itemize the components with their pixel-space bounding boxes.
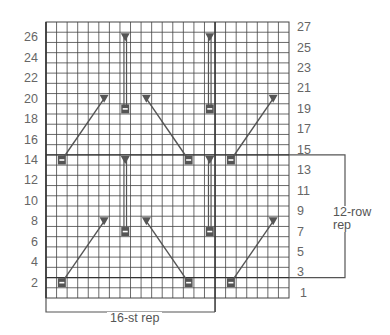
row-label-left: 14 [24, 154, 38, 167]
row-label-right: 7 [297, 226, 304, 239]
row-label-left: 12 [24, 174, 38, 187]
row-label-right: 9 [297, 205, 304, 218]
row-label-left: 24 [24, 52, 38, 65]
row-label-left: 26 [24, 31, 38, 44]
row-label-right: 19 [297, 103, 311, 116]
row-label-left: 10 [24, 195, 38, 208]
row-label-right: 3 [297, 266, 304, 279]
row-label-right: 15 [297, 144, 311, 157]
row-label-right: 5 [297, 246, 304, 259]
row-label-left: 16 [24, 134, 38, 147]
row-label-left: 22 [24, 72, 38, 85]
chart-grid [46, 22, 289, 298]
row-label-right: 11 [297, 185, 310, 198]
row-label-right: 27 [297, 21, 311, 34]
row-label-left: 4 [31, 256, 38, 269]
row-label-right: 25 [297, 42, 311, 55]
row-repeat-label: 12-row rep [333, 206, 371, 232]
row-label-left: 6 [31, 236, 38, 249]
row-label-right: 1 [300, 287, 307, 300]
row-label-left: 2 [31, 277, 38, 290]
row-repeat-label-line2: rep [333, 219, 371, 232]
row-label-left: 8 [31, 215, 38, 228]
row-label-right: 13 [297, 164, 311, 177]
row-label-left: 20 [24, 93, 38, 106]
stitch-repeat-label: 16-st rep [107, 312, 162, 325]
row-label-left: 18 [24, 113, 38, 126]
knitting-chart [0, 0, 390, 335]
row-label-right: 23 [297, 62, 311, 75]
row-label-right: 17 [297, 123, 311, 136]
row-label-right: 21 [297, 82, 311, 95]
